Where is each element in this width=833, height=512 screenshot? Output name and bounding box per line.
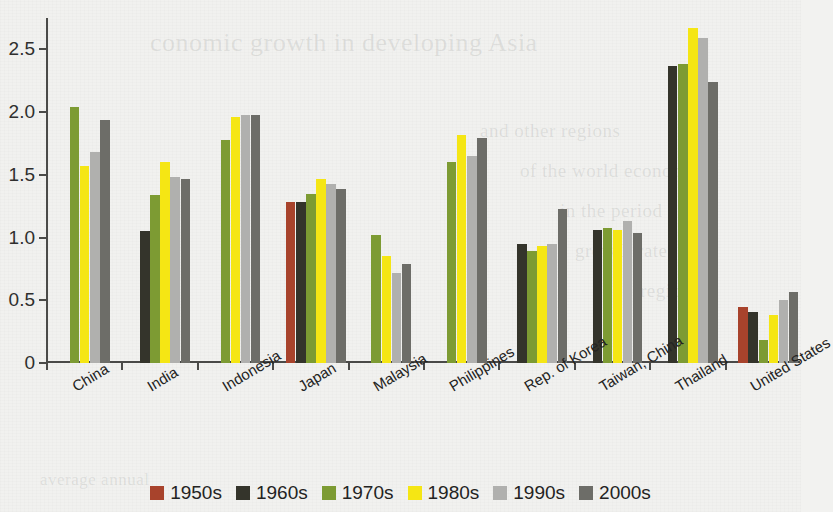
bar [748, 312, 758, 363]
legend-item[interactable]: 1980s [408, 482, 480, 504]
y-axis-tick-label: 2.0 [9, 101, 35, 123]
x-axis-tick [46, 362, 48, 370]
x-axis-tick [197, 362, 199, 370]
y-axis-tick-label: 1.0 [9, 227, 35, 249]
bar [759, 340, 769, 363]
x-axis-category-label: Japan [295, 359, 339, 395]
x-axis-category-label: India [144, 363, 181, 394]
y-axis-tick-label: 0 [24, 352, 35, 374]
bar [738, 307, 748, 363]
x-axis-category-label: China [69, 360, 111, 395]
legend-item[interactable]: 2000s [579, 482, 651, 504]
legend-swatch-icon [150, 486, 164, 500]
bar-group [46, 18, 800, 363]
legend-swatch-icon [236, 486, 250, 500]
legend-swatch-icon [493, 486, 507, 500]
chart-legend: 1950s1960s1970s1980s1990s2000s [0, 482, 801, 504]
legend-label: 1950s [170, 482, 222, 504]
legend-item[interactable]: 1960s [236, 482, 308, 504]
legend-label: 1960s [256, 482, 308, 504]
y-axis-tick-label: 1.5 [9, 164, 35, 186]
legend-swatch-icon [322, 486, 336, 500]
x-axis-tick [121, 362, 123, 370]
legend-label: 1990s [513, 482, 565, 504]
bar [779, 300, 789, 363]
x-axis-category-labels: ChinaIndiaIndonesiaJapanMalaysiaPhilippi… [46, 372, 800, 467]
legend-item[interactable]: 1990s [493, 482, 565, 504]
legend-label: 1980s [428, 482, 480, 504]
x-axis-tick [348, 362, 350, 370]
legend-swatch-icon [579, 486, 593, 500]
legend-item[interactable]: 1970s [322, 482, 394, 504]
y-axis-tick-label: 2.5 [9, 38, 35, 60]
legend-label: 2000s [599, 482, 651, 504]
bar [769, 315, 779, 363]
legend-swatch-icon [408, 486, 422, 500]
legend-label: 1970s [342, 482, 394, 504]
legend-item[interactable]: 1950s [150, 482, 222, 504]
y-axis-tick-label: 0.5 [9, 289, 35, 311]
plot-area: 00.51.01.52.02.5 [46, 18, 800, 363]
